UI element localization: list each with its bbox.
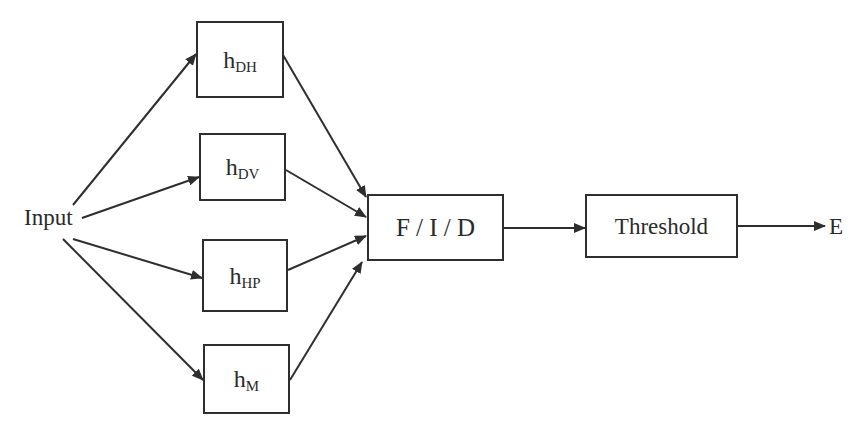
- filter-box-hhp: hHP: [202, 239, 288, 312]
- arrow-input-to-hdv: [82, 177, 199, 218]
- filter-subscript: DH: [235, 59, 257, 75]
- fusion-label: F / I / D: [396, 215, 475, 240]
- fusion-box: F / I / D: [367, 194, 504, 261]
- filter-label: hDV: [226, 155, 260, 179]
- arrow-input-to-hm: [63, 239, 203, 380]
- filter-box-hm: hM: [203, 344, 290, 414]
- threshold-label: Threshold: [615, 215, 708, 238]
- input-label: Input: [24, 206, 73, 229]
- threshold-box: Threshold: [585, 194, 738, 258]
- filter-box-hdv: hDV: [199, 133, 286, 201]
- filter-subscript: M: [246, 378, 259, 394]
- arrow-input-to-hhp: [73, 239, 202, 278]
- arrow-hhp-to-fid: [288, 236, 366, 270]
- filter-label: hHP: [229, 264, 260, 288]
- filter-base: h: [229, 263, 241, 289]
- filter-base: h: [223, 47, 235, 73]
- arrow-input-to-hdh: [73, 54, 196, 205]
- filter-base: h: [226, 154, 238, 180]
- arrow-hm-to-fid: [290, 262, 362, 380]
- filter-base: h: [234, 366, 246, 392]
- filter-box-hdh: hDH: [196, 21, 284, 98]
- filter-label: hDH: [223, 48, 257, 72]
- output-label: E: [829, 215, 843, 238]
- filter-subscript: HP: [241, 275, 260, 291]
- filter-subscript: DV: [238, 166, 260, 182]
- filter-label: hM: [234, 367, 259, 391]
